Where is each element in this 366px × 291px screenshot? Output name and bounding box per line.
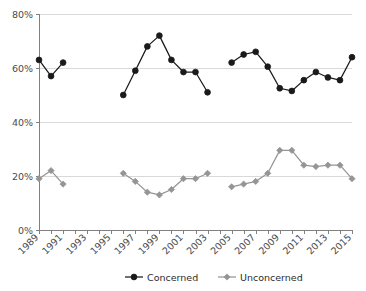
datapoint-concerned-2010 [289, 88, 295, 94]
series-line-concerned [232, 52, 352, 91]
gridlines-group [39, 15, 352, 231]
datapoint-concerned-2007 [253, 49, 259, 55]
x-tick-label: 2015 [329, 232, 354, 257]
x-tick-label: 2013 [304, 232, 329, 257]
y-axis-line [36, 14, 40, 231]
x-tick-labels-group: 1989199119931995199719992001200320052007… [16, 232, 354, 257]
x-tick-label: 1993 [64, 232, 89, 257]
series-line-unconcerned [232, 150, 352, 186]
x-tick-label: 2005 [208, 232, 233, 257]
legend-marker-concerned [131, 274, 137, 280]
y-tick-label: 20% [12, 171, 33, 182]
chart-legend: ConcernedUnconcerned [125, 272, 303, 283]
datapoint-concerned-1989 [36, 57, 42, 63]
datapoint-concerned-1991 [60, 60, 66, 66]
series-line-concerned [123, 36, 207, 95]
line-chart: 0%20%40%60%80% 1989199119931995199719992… [0, 0, 366, 291]
datapoint-concerned-2008 [265, 64, 271, 70]
y-tick-labels-group: 0%20%40%60%80% [12, 9, 33, 236]
series-unconcerned [36, 147, 355, 198]
datapoint-concerned-2013 [325, 75, 331, 81]
series-concerned [36, 33, 355, 98]
legend-marker-unconcerned [224, 274, 230, 280]
datapoint-concerned-1996 [120, 92, 126, 98]
x-tick-label: 1997 [112, 232, 137, 257]
x-tick-label: 1995 [88, 232, 113, 257]
datapoint-concerned-2002 [193, 69, 199, 75]
datapoint-unconcerned-1999 [156, 192, 162, 198]
x-tick-label: 2001 [160, 232, 185, 257]
legend-label-unconcerned[interactable]: Unconcerned [240, 272, 303, 283]
datapoint-concerned-2001 [181, 69, 187, 75]
x-tick-label: 2009 [256, 232, 281, 257]
datapoint-concerned-2012 [313, 69, 319, 75]
datapoint-unconcerned-2013 [325, 162, 331, 168]
datapoint-concerned-2009 [277, 85, 283, 91]
datapoint-unconcerned-2009 [277, 147, 283, 153]
datapoint-concerned-2003 [205, 89, 211, 95]
datapoint-concerned-1999 [156, 33, 162, 39]
datapoint-concerned-2005 [229, 60, 235, 66]
x-tick-label: 2007 [232, 232, 257, 257]
y-tick-label: 40% [12, 117, 33, 128]
x-tick-label: 2003 [184, 232, 209, 257]
datapoint-concerned-2015 [349, 54, 355, 60]
x-tick-label: 2011 [280, 232, 305, 257]
legend-label-concerned[interactable]: Concerned [147, 272, 198, 283]
datapoint-concerned-2011 [301, 77, 307, 83]
y-tick-label: 80% [12, 9, 33, 20]
y-tick-label: 60% [12, 63, 33, 74]
datapoint-concerned-1990 [48, 73, 54, 79]
x-tick-label: 1999 [136, 232, 161, 257]
datapoint-concerned-2014 [337, 77, 343, 83]
datapoint-unconcerned-2012 [313, 163, 319, 169]
x-tick-label: 1991 [40, 232, 65, 257]
datapoint-concerned-1997 [132, 68, 138, 74]
datapoint-unconcerned-2006 [241, 181, 247, 187]
datapoint-unconcerned-2005 [229, 184, 235, 190]
datapoint-concerned-2006 [241, 52, 247, 58]
chart-canvas: 0%20%40%60%80% 1989199119931995199719992… [0, 0, 366, 291]
datapoint-concerned-2000 [169, 57, 175, 63]
datapoint-concerned-1998 [144, 44, 150, 50]
datapoint-unconcerned-2003 [204, 170, 210, 176]
